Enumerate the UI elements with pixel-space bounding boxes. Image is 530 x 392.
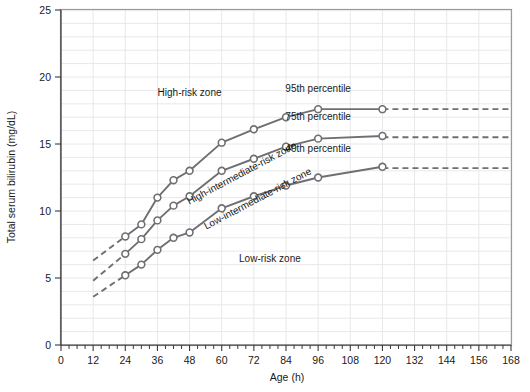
x-tick-label: 24 bbox=[119, 354, 131, 366]
y-tick-label: 15 bbox=[39, 138, 51, 150]
data-point bbox=[138, 221, 145, 228]
data-point bbox=[154, 194, 161, 201]
zone-label: Low-intermediate-risk zone bbox=[202, 165, 314, 231]
data-point bbox=[122, 233, 129, 240]
data-point bbox=[122, 250, 129, 257]
data-point bbox=[186, 229, 193, 236]
y-tick-label: 20 bbox=[39, 71, 51, 83]
zone-label: High-intermediate-risk zone bbox=[185, 139, 299, 206]
y-tick-label: 25 bbox=[39, 4, 51, 16]
x-tick-label: 168 bbox=[502, 354, 520, 366]
percentile-curves bbox=[93, 109, 511, 297]
x-tick-label: 96 bbox=[312, 354, 324, 366]
x-tick-label: 0 bbox=[58, 354, 64, 366]
nomogram-chart: 01224364860728496108120132144156168 0510… bbox=[0, 0, 530, 392]
y-axis-title: Total serum bilirubin (mg/dL) bbox=[5, 111, 17, 243]
zone-label: High-risk zone bbox=[158, 87, 222, 98]
data-point bbox=[315, 174, 322, 181]
data-point bbox=[250, 126, 257, 133]
data-point bbox=[170, 202, 177, 209]
y-axis: 0510152025 bbox=[39, 4, 61, 351]
data-point bbox=[170, 177, 177, 184]
x-axis-title: Age (h) bbox=[270, 371, 304, 383]
data-point bbox=[122, 272, 129, 279]
x-tick-label: 72 bbox=[248, 354, 260, 366]
x-tick-label: 108 bbox=[342, 354, 360, 366]
x-tick-label: 120 bbox=[374, 354, 392, 366]
y-tick-label: 5 bbox=[45, 272, 51, 284]
percentile-label: 75th percentile bbox=[285, 111, 351, 122]
data-point bbox=[218, 167, 225, 174]
data-point bbox=[218, 139, 225, 146]
zone-label: Low-risk zone bbox=[239, 253, 301, 264]
curve-leadin-0 bbox=[93, 236, 125, 260]
data-point bbox=[154, 246, 161, 253]
x-tick-label: 36 bbox=[152, 354, 164, 366]
curve-leadin-2 bbox=[93, 275, 125, 296]
x-tick-label: 60 bbox=[216, 354, 228, 366]
x-tick-label: 84 bbox=[280, 354, 292, 366]
x-tick-label: 156 bbox=[470, 354, 488, 366]
y-tick-label: 0 bbox=[45, 339, 51, 351]
data-point bbox=[186, 167, 193, 174]
data-point bbox=[315, 135, 322, 142]
bilirubin-nomogram-figure: 01224364860728496108120132144156168 0510… bbox=[0, 0, 530, 392]
data-point bbox=[170, 234, 177, 241]
data-point bbox=[138, 236, 145, 243]
data-point bbox=[379, 133, 386, 140]
x-tick-label: 12 bbox=[87, 354, 99, 366]
x-tick-label: 132 bbox=[406, 354, 424, 366]
percentile-label: 95th percentile bbox=[285, 83, 351, 94]
x-tick-label: 144 bbox=[438, 354, 456, 366]
data-point bbox=[379, 163, 386, 170]
data-point bbox=[154, 217, 161, 224]
data-point bbox=[379, 106, 386, 113]
y-tick-label: 10 bbox=[39, 205, 51, 217]
percentile-label: 40th percentile bbox=[285, 143, 351, 154]
data-point bbox=[138, 261, 145, 268]
x-tick-label: 48 bbox=[184, 354, 196, 366]
x-axis: 01224364860728496108120132144156168 bbox=[58, 345, 520, 366]
